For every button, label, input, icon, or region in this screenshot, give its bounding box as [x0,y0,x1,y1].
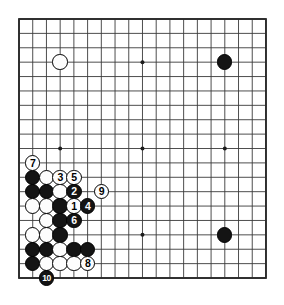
move-stone-10[interactable]: 10 [39,270,54,285]
stone-black[interactable] [80,242,95,257]
star-point [140,233,144,237]
star-point [223,147,227,151]
move-stone-5[interactable]: 5 [66,170,81,185]
stone-black[interactable] [52,227,67,242]
move-number-label: 8 [85,258,90,269]
move-stone-4[interactable]: 4 [80,198,95,213]
move-stone-7[interactable]: 7 [25,155,40,170]
star-point [58,147,62,151]
screenshot-root: 73529146810 [0,0,284,305]
move-number-label: 1 [71,200,76,211]
move-number-label: 10 [42,273,50,282]
move-number-label: 7 [30,157,35,168]
stone-black[interactable] [217,227,232,242]
star-point [140,60,144,64]
move-stone-6[interactable]: 6 [66,213,81,228]
move-number-label: 6 [71,215,76,226]
go-board[interactable]: 73529146810 [0,0,284,305]
move-number-label: 3 [57,172,62,183]
stone-white[interactable] [52,54,67,69]
star-point [140,147,144,151]
move-number-label: 5 [71,172,76,183]
move-number-label: 9 [99,186,104,197]
move-stone-2[interactable]: 2 [66,184,81,199]
move-number-label: 2 [71,186,76,197]
move-number-label: 4 [85,200,90,211]
